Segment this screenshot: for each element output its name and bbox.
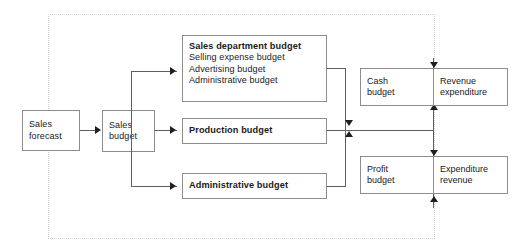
node-profit-budget-expenditure-revenue[interactable]: Profit budget Expenditure revenue [360,156,508,194]
node-administrative-budget-title: Administrative budget [183,176,294,196]
node-sales-department-budget-line-1: Advertising budget [189,64,320,76]
edge-budget-distributor-vertical [131,71,132,187]
edge-administrative-to-collector [327,186,346,187]
edge-junction-to-bus [349,130,434,131]
node-revenue-expenditure[interactable]: Revenue expenditure [434,69,509,105]
node-sales-forecast-label: Sales forecast [23,115,79,146]
node-production-budget[interactable]: Production budget [182,118,327,144]
arrowhead-junction-up [345,131,353,137]
node-production-budget-title: Production budget [183,121,278,141]
node-profit-budget[interactable]: Profit budget [361,157,434,193]
node-expenditure-revenue-label: Expenditure revenue [440,164,488,187]
node-sales-forecast[interactable]: Sales forecast [22,110,80,151]
arrowhead-out-profit-budget-bottom [430,196,438,202]
arrowhead-to-administrative [170,182,176,190]
node-cash-budget[interactable]: Cash budget [361,69,434,105]
node-sales-department-budget-line-0: Selling expense budget [189,52,320,64]
node-sales-department-budget-line-2: Administrative budget [189,75,320,87]
node-profit-budget-label: Profit budget [367,164,395,187]
node-cash-budget-revenue-expenditure[interactable]: Cash budget Revenue expenditure [360,68,508,106]
node-cash-budget-label: Cash budget [367,76,395,99]
arrowhead-to-production [170,126,176,134]
node-expenditure-revenue[interactable]: Expenditure revenue [434,157,509,193]
node-sales-department-budget[interactable]: Sales department budget Selling expense … [182,35,327,102]
arrowhead-to-sales-dept [170,67,176,75]
budget-flow-diagram: Sales forecast Sales budget Sales depart… [0,0,524,251]
node-sales-budget-label: Sales budget [103,116,154,147]
arrowhead-forecast-to-budget [95,126,101,134]
node-sales-department-budget-title: Sales department budget [189,40,320,52]
node-administrative-budget[interactable]: Administrative budget [182,173,327,199]
node-revenue-expenditure-label: Revenue expenditure [440,76,487,99]
node-sales-budget[interactable]: Sales budget [102,110,155,152]
edge-sales-dept-to-collector [327,68,346,69]
edge-collector-vertical [345,68,346,186]
edge-forecast-to-budget [80,130,96,131]
arrowhead-junction-down [345,120,353,126]
